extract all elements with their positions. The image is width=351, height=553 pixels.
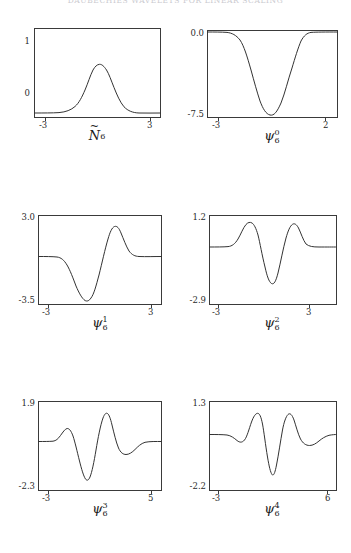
y-tick-bottom: -2.2 xyxy=(181,481,206,491)
y-tick-top: 1 xyxy=(10,36,30,46)
y-tick-top: 3.0 xyxy=(10,212,35,222)
caption-n6: ~N6 xyxy=(17,128,177,143)
figure-page: DAUBECHIES WAVELETS FOR LINEAR SCALING 1… xyxy=(0,0,351,553)
y-tick-bottom: -3.5 xyxy=(10,295,35,305)
curve-n6 xyxy=(34,28,161,118)
caption-symbol: ψ xyxy=(92,501,102,516)
panel-psi6-2: 1.2 -2.9 -3 3 xyxy=(209,215,337,305)
y-tick-top: 1.2 xyxy=(184,212,206,222)
caption-indices: 36 xyxy=(103,502,108,518)
y-tick-top: 1.9 xyxy=(12,398,35,408)
tilde-accent: ~ xyxy=(89,120,100,133)
curve-psi6-3 xyxy=(38,401,162,491)
y-tick-bottom: 0 xyxy=(10,88,30,98)
caption-indices: 26 xyxy=(275,316,280,332)
y-tick-bottom: -7.5 xyxy=(179,109,204,119)
caption-psi6-1: ψ16 xyxy=(20,315,180,332)
caption-symbol: ψ xyxy=(264,128,274,143)
panel-psi6-4: 1.3 -2.2 -3 6 xyxy=(209,401,337,491)
caption-symbol: ψ xyxy=(264,315,274,330)
caption-indices: 16 xyxy=(103,316,108,332)
caption-psi6-2: ψ26 xyxy=(192,315,351,332)
caption-psi6-4: ψ46 xyxy=(192,501,351,518)
curve-psi6-1 xyxy=(38,215,162,305)
y-tick-top: 0.0 xyxy=(179,28,204,38)
y-tick-bottom: -2.3 xyxy=(10,481,35,491)
curve-psi6-4 xyxy=(209,401,337,491)
y-tick-top: 1.3 xyxy=(184,398,206,408)
caption-indices: 6 xyxy=(100,133,105,141)
caption-symbol: ~N xyxy=(89,128,100,143)
panel-psi6-3: 1.9 -2.3 -3 5 xyxy=(38,401,162,491)
caption-symbol: ψ xyxy=(92,315,102,330)
curve-psi6-0 xyxy=(207,30,338,118)
caption-psi6-3: ψ36 xyxy=(20,501,180,518)
y-tick-bottom: -2.9 xyxy=(181,295,206,305)
running-header: DAUBECHIES WAVELETS FOR LINEAR SCALING xyxy=(0,0,351,3)
panel-psi6-0: 0.0 -7.5 -3 2 xyxy=(207,30,338,118)
caption-psi6-0: ψ06 xyxy=(192,128,351,145)
panel-psi6-1: 3.0 -3.5 -3 3 xyxy=(38,215,162,305)
caption-indices: 06 xyxy=(275,129,280,145)
caption-symbol: ψ xyxy=(264,501,274,516)
curve-psi6-2 xyxy=(209,215,337,305)
panel-n6: 1 0 -3 3 xyxy=(34,28,161,118)
caption-indices: 46 xyxy=(275,502,280,518)
